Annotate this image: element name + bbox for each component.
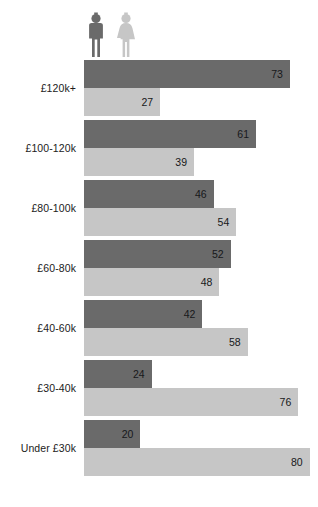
bar-male: 46 [84, 180, 214, 208]
bars-plot-area: £120k+ 73 27 £100-120k 61 39 £80-100k 46 [0, 60, 318, 507]
bar-value-male: 24 [133, 360, 145, 388]
bar-value-male: 52 [212, 240, 224, 268]
bar-value-male: 61 [237, 120, 249, 148]
table-row: Under £30k 20 80 [0, 420, 318, 477]
bar-value-male: 73 [271, 60, 283, 88]
category-label: Under £30k [0, 440, 76, 456]
category-label: £40-60k [0, 320, 76, 336]
table-row: £40-60k 42 58 [0, 300, 318, 357]
bar-value-male: 20 [122, 420, 134, 448]
table-row: £120k+ 73 27 [0, 60, 318, 117]
table-row: £30-40k 24 76 [0, 360, 318, 417]
bar-female: 80 [84, 448, 310, 476]
legend-item-male [84, 12, 108, 58]
bar-male: 73 [84, 60, 290, 88]
bar-female: 54 [84, 208, 236, 236]
table-row: £60-80k 52 48 [0, 240, 318, 297]
income-gender-split-chart: £120k+ 73 27 £100-120k 61 39 £80-100k 46 [0, 0, 318, 507]
bar-male: 52 [84, 240, 231, 268]
bar-male: 42 [84, 300, 202, 328]
bar-value-male: 46 [195, 180, 207, 208]
bar-value-female: 39 [175, 148, 187, 176]
male-figure-icon [84, 12, 108, 58]
legend-item-female [114, 12, 138, 58]
female-figure-icon [114, 12, 138, 58]
bar-female: 76 [84, 388, 298, 416]
bar-value-female: 80 [291, 448, 303, 476]
table-row: £80-100k 46 54 [0, 180, 318, 237]
bar-value-female: 27 [141, 88, 153, 116]
bar-value-male: 42 [184, 300, 196, 328]
bar-value-female: 54 [218, 208, 230, 236]
table-row: £100-120k 61 39 [0, 120, 318, 177]
chart-legend [84, 12, 144, 58]
category-label: £30-40k [0, 380, 76, 396]
bar-female: 58 [84, 328, 248, 356]
category-label: £60-80k [0, 260, 76, 276]
bar-value-female: 58 [229, 328, 241, 356]
bar-male: 61 [84, 120, 256, 148]
bar-female: 39 [84, 148, 194, 176]
bar-value-female: 48 [201, 268, 213, 296]
bar-value-female: 76 [280, 388, 292, 416]
bar-male: 20 [84, 420, 140, 448]
category-label: £80-100k [0, 200, 76, 216]
bar-male: 24 [84, 360, 152, 388]
bar-female: 27 [84, 88, 160, 116]
category-label: £120k+ [0, 80, 76, 96]
bar-female: 48 [84, 268, 219, 296]
category-label: £100-120k [0, 140, 76, 156]
